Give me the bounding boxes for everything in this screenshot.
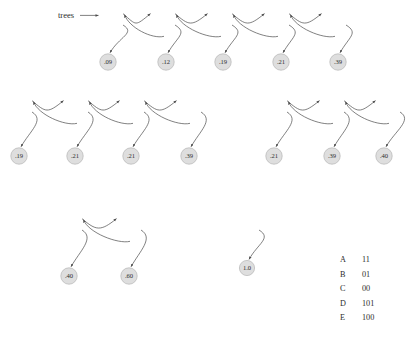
code-symbol: A (340, 255, 346, 264)
tree-pointer-arrow (133, 112, 149, 147)
tree-node: .21 (67, 148, 83, 164)
code-symbol: D (340, 299, 346, 308)
svg-text:.19: .19 (219, 58, 228, 65)
next-pointer-arrow (88, 101, 120, 110)
next-pointer-arrow (344, 101, 376, 110)
tree-pointer-arrow (110, 25, 128, 53)
tree-node: .21 (123, 148, 139, 164)
tree-pointer-arrow (386, 112, 405, 147)
svg-text:1.0: 1.0 (243, 264, 252, 271)
row-2-left: .19.21.21.39 (11, 101, 206, 165)
prev-pointer-arrow (346, 102, 390, 124)
prev-pointer-arrow (90, 102, 134, 124)
prev-pointer-arrow (289, 102, 334, 124)
code-value: 100 (362, 313, 374, 322)
huffman-construction-figure: .09.12.19.21.39.19.21.21.39.21.39.40.40.… (0, 0, 412, 360)
next-pointer-arrow (32, 101, 64, 110)
tree-node: .21 (266, 148, 282, 164)
tree-node: .60 (121, 268, 137, 284)
code-symbol: B (340, 270, 346, 279)
row-2-right: .21.39.40 (266, 101, 405, 165)
code-value: 01 (362, 270, 370, 279)
prev-pointer-arrow (146, 102, 191, 124)
tree-node: .40 (376, 148, 392, 164)
tree-pointer-arrow (191, 112, 206, 147)
tree-node: 1.0 (239, 260, 254, 275)
next-pointer-arrow (289, 14, 322, 23)
svg-text:.21: .21 (127, 152, 135, 159)
tree-pointer-arrow (71, 230, 87, 267)
tree-pointer-arrow (276, 112, 292, 147)
code-value: 11 (362, 255, 370, 264)
row-3-right: 1.0 (239, 230, 264, 276)
code-symbol: E (340, 313, 345, 322)
tree-pointer-arrow (225, 25, 238, 53)
tree-pointer-arrow (334, 112, 349, 147)
svg-text:.40: .40 (65, 272, 74, 279)
tree-node: .39 (324, 148, 340, 164)
next-pointer-arrow (287, 101, 320, 110)
tree-node: .19 (11, 148, 27, 164)
tree-pointer-arrow (283, 25, 295, 53)
prev-pointer-arrow (291, 15, 336, 37)
next-pointer-arrow (232, 14, 265, 23)
next-pointer-arrow (144, 101, 177, 110)
tree-node: .21 (273, 54, 289, 70)
tree-node: .39 (181, 148, 197, 164)
tree-pointer-arrow (21, 112, 37, 147)
row-1: .09.12.19.21.39 (100, 14, 352, 71)
svg-text:.40: .40 (380, 152, 389, 159)
svg-text:.39: .39 (334, 58, 343, 65)
prev-pointer-arrow (177, 15, 222, 37)
trees-label: trees (58, 10, 74, 20)
svg-text:.12: .12 (162, 58, 170, 65)
svg-text:.21: .21 (71, 152, 79, 159)
prev-pointer-arrow (125, 15, 165, 37)
tree-node: .12 (158, 54, 174, 70)
svg-text:.19: .19 (15, 152, 24, 159)
tree-node: .40 (61, 268, 77, 284)
tree-pointer-arrow (131, 230, 146, 267)
next-pointer-arrow (82, 219, 117, 228)
svg-text:.21: .21 (270, 152, 278, 159)
tree-pointer-arrow (77, 112, 93, 147)
prev-pointer-arrow (34, 102, 78, 124)
tree-pointer-arrow (340, 25, 352, 53)
next-pointer-arrow (175, 14, 208, 23)
trees-label-group: trees (58, 10, 99, 20)
svg-text:.21: .21 (277, 58, 285, 65)
tree-pointer-arrow (249, 230, 264, 259)
tree-pointer-arrow (168, 25, 181, 53)
svg-text:.39: .39 (185, 152, 194, 159)
next-pointer-arrow (123, 14, 151, 23)
tree-node: .19 (215, 54, 231, 70)
code-table: A11B01C00D101E100 (340, 255, 374, 322)
svg-text:.60: .60 (125, 272, 134, 279)
tree-node: .39 (330, 54, 346, 70)
code-value: 00 (362, 284, 370, 293)
svg-text:.09: .09 (104, 58, 113, 65)
code-symbol: C (340, 284, 346, 293)
prev-pointer-arrow (234, 15, 279, 37)
tree-node: .09 (100, 54, 116, 70)
prev-pointer-arrow (84, 220, 131, 242)
row-3-left: .40.60 (61, 219, 146, 285)
svg-text:.39: .39 (328, 152, 337, 159)
code-value: 101 (362, 299, 374, 308)
